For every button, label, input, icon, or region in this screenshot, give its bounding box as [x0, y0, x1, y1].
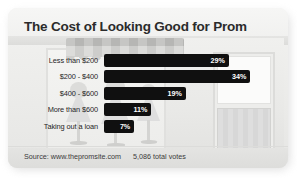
bar-track: 7% — [104, 120, 276, 133]
bar-category-label: Less than $200 — [20, 56, 104, 65]
page-title: The Cost of Looking Good for Prom — [24, 19, 247, 34]
bar: 34% — [104, 70, 250, 83]
footer: Source: www.thepromsite.com 5,086 total … — [24, 152, 186, 161]
bar: 7% — [104, 120, 134, 133]
bar-value-label: 7% — [120, 122, 134, 131]
bar-track: 11% — [104, 103, 276, 116]
bar-category-label: $400 - $600 — [20, 89, 104, 98]
bar-category-label: More than $600 — [20, 105, 104, 114]
bar-row: Taking out a loan7% — [20, 120, 276, 133]
total-votes-label: 5,086 total votes — [133, 152, 186, 161]
bar-category-label: $200 - $400 — [20, 72, 104, 81]
bar: 29% — [104, 54, 229, 67]
bar-row: More than $60011% — [20, 103, 276, 116]
bar-value-label: 29% — [211, 56, 229, 65]
bar-value-label: 11% — [134, 105, 152, 114]
dress-form-3-base — [141, 140, 157, 144]
bar-track: 29% — [104, 54, 276, 67]
bar-category-label: Taking out a loan — [20, 122, 104, 131]
footer-divider — [8, 146, 288, 147]
awning-top-stripe — [66, 38, 184, 47]
bar: 19% — [104, 87, 186, 100]
infographic-card: The Cost of Looking Good for Prom Less t… — [8, 8, 288, 168]
bar-chart: Less than $20029%$200 - $40034%$400 - $6… — [20, 54, 276, 138]
bar-row: $400 - $60019% — [20, 87, 276, 100]
bar-track: 19% — [104, 87, 276, 100]
title-band — [8, 36, 288, 45]
bar-row: $200 - $40034% — [20, 70, 276, 83]
infographic-page: The Cost of Looking Good for Prom Less t… — [0, 0, 297, 178]
bar-row: Less than $20029% — [20, 54, 276, 67]
bar: 11% — [104, 103, 151, 116]
bar-value-label: 19% — [168, 89, 186, 98]
bar-track: 34% — [104, 70, 276, 83]
source-label: Source: www.thepromsite.com — [24, 152, 121, 161]
dress-form-1-base — [70, 141, 87, 145]
bar-value-label: 34% — [232, 72, 250, 81]
